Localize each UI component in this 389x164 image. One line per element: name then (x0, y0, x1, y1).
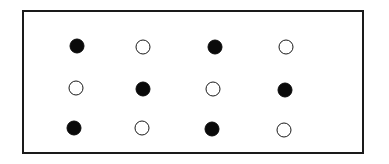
filled-circle-icon (278, 83, 293, 98)
filled-circle-icon (67, 121, 82, 136)
open-circle-icon (135, 121, 150, 136)
open-circle-icon (279, 40, 294, 55)
filled-circle-icon (136, 82, 151, 97)
open-circle-icon (69, 81, 84, 96)
open-circle-icon (136, 40, 151, 55)
open-circle-icon (277, 123, 292, 138)
filled-circle-icon (208, 40, 223, 55)
open-circle-icon (206, 82, 221, 97)
filled-circle-icon (70, 39, 85, 54)
filled-circle-icon (205, 122, 220, 137)
